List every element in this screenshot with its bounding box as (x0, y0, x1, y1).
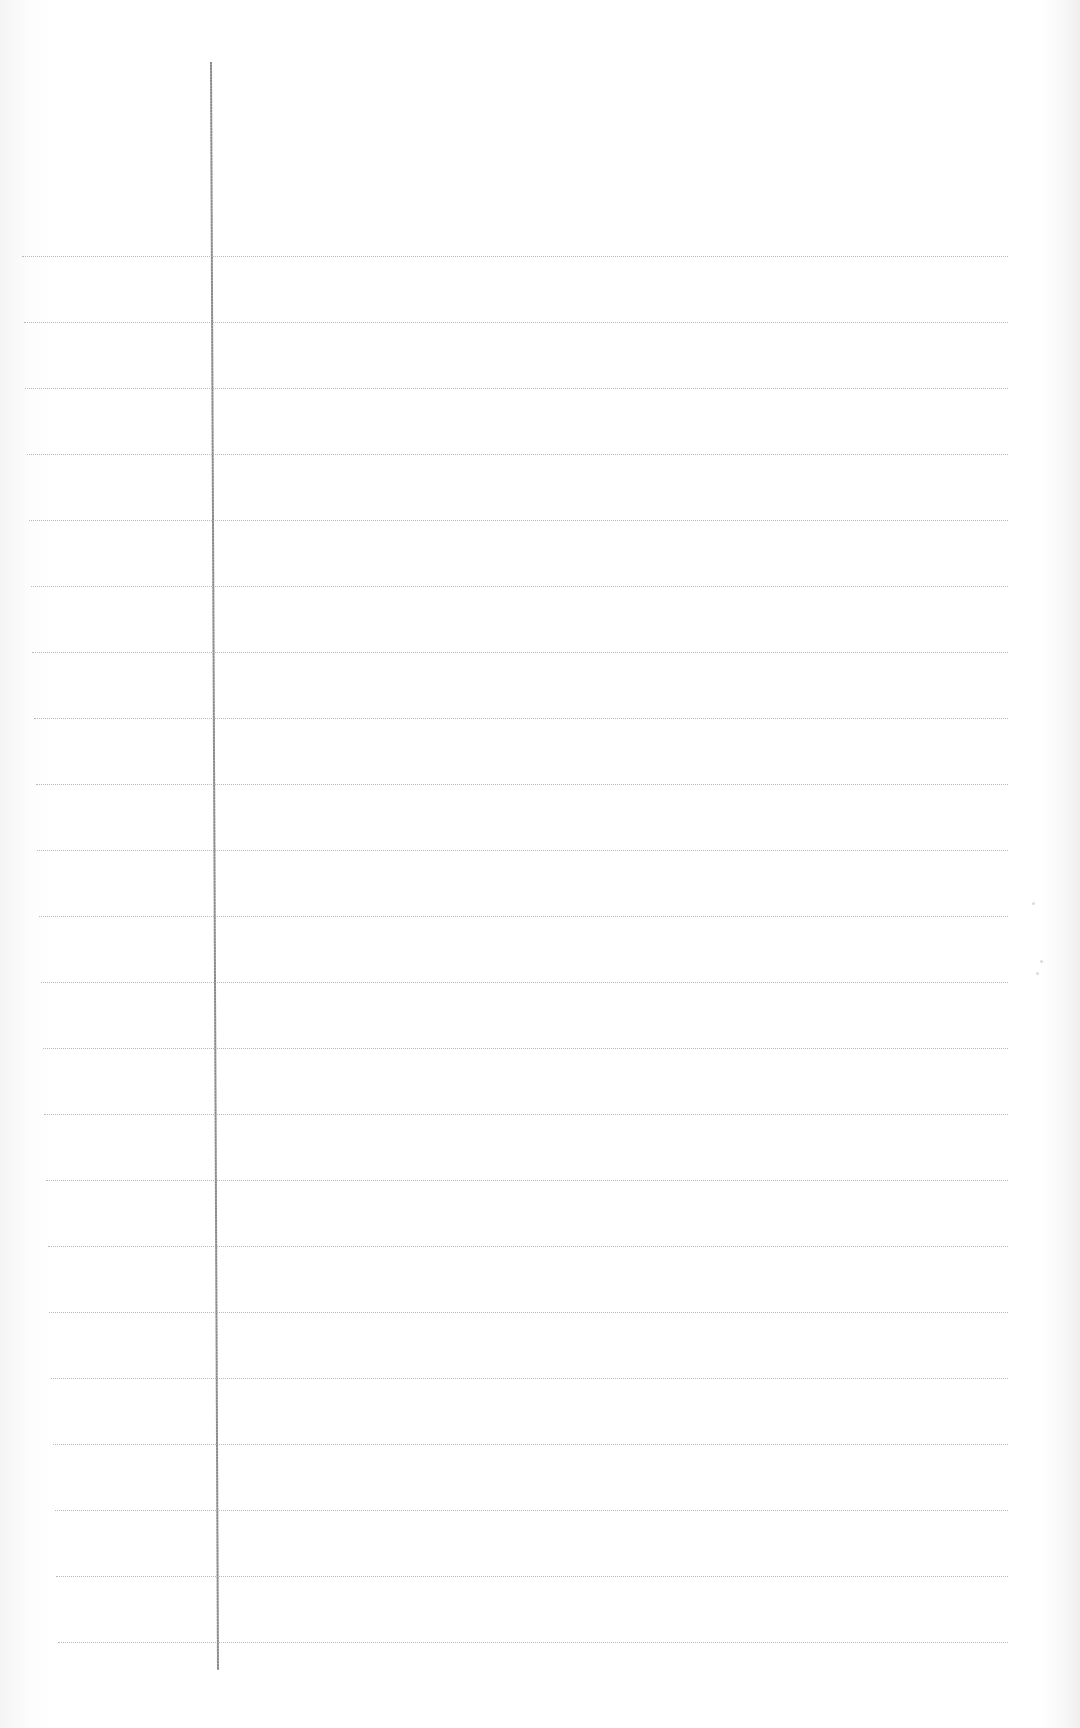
rule-line (41, 982, 1008, 983)
margin-line (210, 62, 219, 1670)
rule-line (22, 256, 1008, 257)
rule-line (56, 1576, 1008, 1577)
paper-speck (1040, 960, 1043, 963)
paper-speck (1032, 902, 1035, 905)
rule-line (36, 784, 1008, 785)
rule-line (27, 454, 1008, 455)
rule-line (58, 1642, 1008, 1643)
rule-line (32, 652, 1008, 653)
rule-line (34, 718, 1008, 719)
rule-line (25, 388, 1008, 389)
rule-line (37, 850, 1008, 851)
rule-line (55, 1510, 1008, 1511)
rule-line (24, 322, 1008, 323)
paper-speck (1036, 972, 1039, 975)
rule-line (44, 1114, 1008, 1115)
rule-line (48, 1246, 1008, 1247)
rule-line (31, 586, 1008, 587)
rule-line (43, 1048, 1008, 1049)
ruled-paper-page (0, 0, 1080, 1728)
rule-line (53, 1444, 1008, 1445)
rule-line (51, 1378, 1008, 1379)
rule-line (46, 1180, 1008, 1181)
rule-line (39, 916, 1008, 917)
rule-line (29, 520, 1008, 521)
rule-line (49, 1312, 1008, 1313)
